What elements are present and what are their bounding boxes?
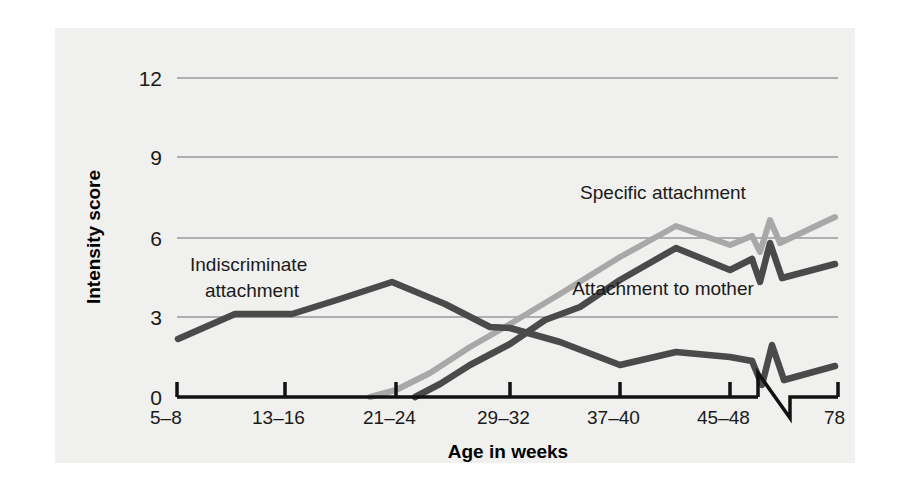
y-tick-9: 9 <box>150 146 162 169</box>
series-line-attachment-to-mother <box>415 248 752 397</box>
x-tick-label-5: 37–40 <box>587 407 640 428</box>
label-indiscriminate-attachment-line1: Indiscriminate <box>190 254 307 275</box>
label-attachment-to-mother: Attachment to mother <box>572 278 754 299</box>
label-indiscriminate-attachment-line2: attachment <box>205 280 300 301</box>
line-chart: 12 9 6 3 0 Intensity score <box>0 0 901 503</box>
x-axis-tick-labels: 5–8 13–16 21–24 29–32 37–40 45–48 78 <box>150 407 845 428</box>
y-tick-6: 6 <box>150 227 162 250</box>
x-tick-label-2: 13–16 <box>252 407 305 428</box>
label-specific-attachment: Specific attachment <box>580 182 747 203</box>
y-axis-tick-labels: 12 9 6 3 0 <box>139 67 162 409</box>
x-axis-title: Age in weeks <box>448 441 568 462</box>
series-tail-attachment-to-mother <box>782 264 835 278</box>
x-tick-label-3: 21–24 <box>363 407 416 428</box>
x-tick-label-4: 29–32 <box>477 407 530 428</box>
y-tick-12: 12 <box>139 67 162 90</box>
figure-container: 12 9 6 3 0 Intensity score <box>0 0 901 503</box>
y-tick-3: 3 <box>150 306 162 329</box>
y-tick-0: 0 <box>150 386 162 409</box>
series-tail-specific-attachment <box>780 217 835 243</box>
x-tick-label-6: 45–48 <box>697 407 750 428</box>
x-tick-label-7: 78 <box>824 407 845 428</box>
y-axis-title: Intensity score <box>83 170 104 304</box>
x-tick-label-1: 5–8 <box>150 407 182 428</box>
series-tail-indiscriminate-attachment <box>784 366 835 380</box>
